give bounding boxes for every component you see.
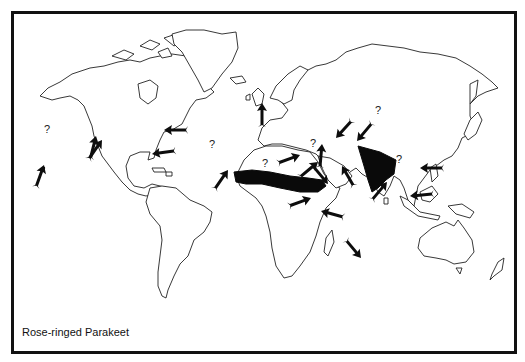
arrow-england (257, 103, 267, 127)
sumatra-java (400, 196, 440, 220)
australia (418, 220, 474, 264)
arrow-hawaii (31, 163, 49, 189)
question-mark-west-africa: ? (209, 138, 215, 150)
south-america (146, 186, 212, 298)
madagascar (324, 230, 334, 256)
arrow-mauritius (342, 236, 365, 261)
question-mark-hawaii: ? (44, 123, 50, 135)
british-isles (246, 88, 264, 106)
sri-lanka (384, 198, 388, 204)
north-america (40, 54, 214, 196)
question-mark-mediterranean: ? (310, 137, 316, 149)
iceland (230, 76, 246, 84)
new-zealand (490, 258, 504, 280)
caribbean-islands (152, 168, 172, 176)
question-mark-central-asia: ? (375, 104, 381, 116)
new-guinea (448, 204, 474, 218)
world-map: ? ? ? ? ? ? (0, 0, 525, 362)
tasmania (456, 268, 462, 274)
question-mark-burma: ? (396, 153, 402, 165)
arrow-west-africa-coast (210, 167, 232, 192)
question-mark-libya: ? (262, 157, 268, 169)
figure-caption: Rose-ringed Parakeet (22, 326, 129, 338)
